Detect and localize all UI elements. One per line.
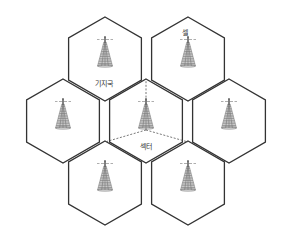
label-sector: 섹터 <box>140 144 152 151</box>
label-cell: 셀 <box>182 30 188 37</box>
label-base-station: 기지국 <box>95 81 113 88</box>
hexagon-cell-grid <box>0 0 286 236</box>
